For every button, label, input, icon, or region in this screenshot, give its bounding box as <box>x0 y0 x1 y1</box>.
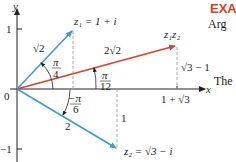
z2-depth-label: 1 <box>121 112 127 124</box>
origin-label: 0 <box>4 90 10 102</box>
z1-label: z₁ = 1 + i <box>73 15 117 27</box>
z2-vector <box>17 89 116 148</box>
side-text-line-2: The <box>214 74 233 89</box>
x-axis-label: x <box>205 83 211 95</box>
svg-text:4: 4 <box>53 68 59 80</box>
z1-length-label: √2 <box>33 42 45 54</box>
example-heading: EXA <box>210 1 236 16</box>
y-tick-neg1-label: −1 <box>0 143 12 155</box>
angle-arc-pi-over-4 <box>41 63 53 89</box>
svg-text:6: 6 <box>73 103 79 115</box>
z2-label: z₂ = √3 − i <box>123 145 173 157</box>
y-tick-1-label: 1 <box>6 23 12 35</box>
z1-vector <box>17 31 72 89</box>
z2-length-label: 2 <box>65 120 71 132</box>
svg-text:π: π <box>53 56 59 68</box>
z1z2-angle-label: π 12 <box>100 69 111 92</box>
y-axis-label: y <box>12 0 18 12</box>
svg-text:12: 12 <box>100 80 111 92</box>
angle-arc-pi-over-12 <box>94 68 96 89</box>
z1z2-label: z₁z₂ <box>163 28 180 40</box>
z1-angle-label: π 4 <box>52 56 61 80</box>
side-text-line-1: Arg <box>208 17 226 32</box>
z1z2-height-label: √3 − 1 <box>181 61 210 73</box>
z1z2-length-label: 2√2 <box>104 44 121 56</box>
complex-plane-diagram: y x 0 1 −1 z₁ = 1 + i √2 π 4 z₁z₂ 2√2 π … <box>0 0 236 162</box>
z1z2-x-label: 1 + √3 <box>161 93 190 105</box>
z2-angle-label: −π 6 <box>68 92 81 115</box>
